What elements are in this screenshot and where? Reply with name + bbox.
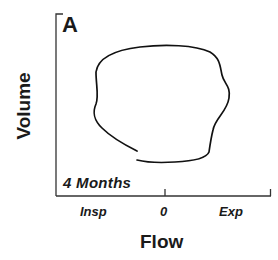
flow-volume-figure: A 4 Months Insp 0 Exp Flow Volume — [0, 0, 278, 260]
x-axis-title: Flow — [140, 232, 183, 251]
plot-canvas — [0, 0, 278, 260]
x-tick-label-exp: Exp — [219, 205, 243, 218]
flow-volume-loop — [94, 45, 229, 162]
x-tick-label-zero: 0 — [160, 205, 167, 218]
panel-label: A — [62, 14, 78, 36]
age-label: 4 Months — [63, 175, 131, 190]
y-axis-title: Volume — [14, 72, 33, 139]
x-tick-label-insp: Insp — [80, 205, 107, 218]
y-axis-line — [56, 14, 63, 196]
